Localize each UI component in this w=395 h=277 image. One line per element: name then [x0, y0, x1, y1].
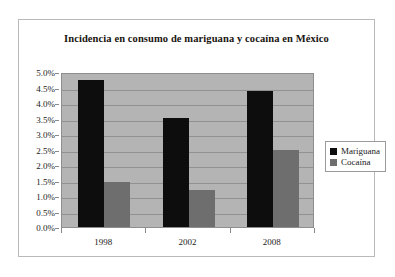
bar-group-1998	[78, 74, 130, 227]
chart-page: Incidencia en consumo de mariguana y coc…	[0, 0, 395, 277]
x-axis: 199820022008	[61, 228, 314, 254]
y-tick-mark	[55, 228, 59, 229]
chart-title: Incidencia en consumo de mariguana y coc…	[19, 33, 374, 44]
y-tick-mark	[55, 182, 59, 183]
legend-item-cocaína: Cocaína	[330, 157, 380, 167]
y-tick-label: 3.5%	[36, 115, 55, 125]
bar-cocaína-1998	[104, 182, 130, 227]
plot-area	[61, 73, 314, 228]
legend-label: Cocaína	[341, 157, 371, 167]
y-tick-mark	[55, 213, 59, 214]
y-tick-mark	[55, 120, 59, 121]
y-tick-label: 0.5%	[36, 208, 55, 218]
legend-label: Mariguana	[341, 146, 380, 156]
bar-mariguana-1998	[78, 80, 104, 227]
y-tick-mark	[55, 151, 59, 152]
x-tick-label-1998: 1998	[94, 237, 112, 247]
bar-cocaína-2002	[189, 190, 215, 227]
y-tick-label: 1.5%	[36, 177, 55, 187]
bar-cocaína-2008	[273, 150, 299, 227]
y-tick-label: 0.0%	[36, 223, 55, 233]
y-tick-label: 2.5%	[36, 146, 55, 156]
bar-group-2008	[247, 74, 299, 227]
y-tick-label: 2.0%	[36, 161, 55, 171]
x-tick-mark	[314, 228, 315, 233]
bar-mariguana-2002	[163, 118, 189, 227]
y-tick-mark	[55, 135, 59, 136]
y-tick-mark	[55, 73, 59, 74]
bar-group-2002	[163, 74, 215, 227]
y-tick-label: 5.0%	[36, 68, 55, 78]
bar-mariguana-2008	[247, 91, 273, 227]
legend-swatch-icon	[330, 159, 337, 166]
x-tick-mark	[230, 228, 231, 233]
x-tick-mark	[61, 228, 62, 233]
chart-legend: MariguanaCocaína	[325, 141, 386, 172]
y-tick-label: 4.0%	[36, 99, 55, 109]
legend-item-mariguana: Mariguana	[330, 146, 380, 156]
chart-frame: Incidencia en consumo de mariguana y coc…	[18, 19, 375, 257]
bars-layer	[62, 74, 313, 227]
legend-swatch-icon	[330, 148, 337, 155]
y-tick-label: 3.0%	[36, 130, 55, 140]
y-axis: 5.0%4.5%4.0%3.5%3.0%2.5%2.0%1.5%1.0%0.5%…	[19, 73, 59, 228]
y-tick-mark	[55, 166, 59, 167]
y-tick-mark	[55, 104, 59, 105]
y-tick-mark	[55, 89, 59, 90]
y-tick-label: 4.5%	[36, 84, 55, 94]
x-tick-mark	[145, 228, 146, 233]
y-tick-mark	[55, 197, 59, 198]
y-tick-label: 1.0%	[36, 192, 55, 202]
x-tick-label-2008: 2008	[263, 237, 281, 247]
x-tick-label-2002: 2002	[179, 237, 197, 247]
